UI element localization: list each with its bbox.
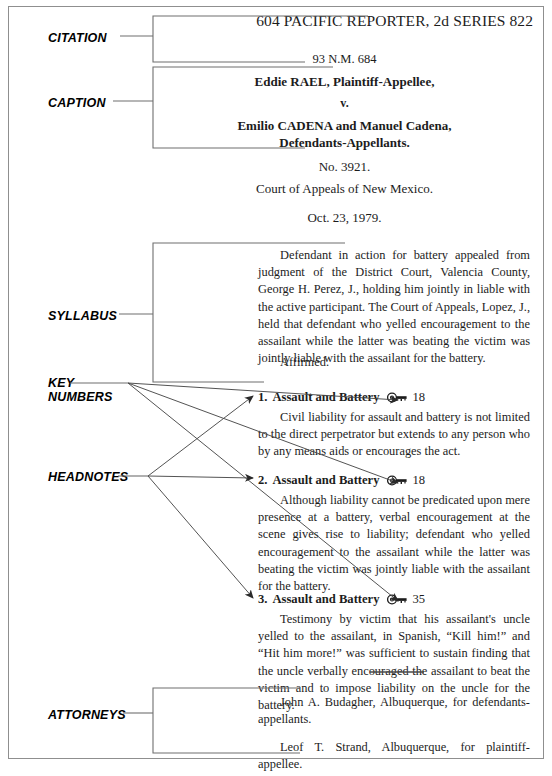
headnote-number: 3.	[258, 592, 267, 606]
key-icon	[387, 475, 408, 490]
syllabus-paragraph: Defendant in action for battery appealed…	[258, 247, 530, 367]
party-appellee: Eddie RAEL, Plaintiff-Appellee,	[153, 74, 536, 90]
headnote-topic: Assault and Battery	[272, 473, 379, 487]
attorney-for-appellee: Leof T. Strand, Albuquerque, for plainti…	[258, 739, 530, 773]
annotation-label-key-numbers: KEY NUMBERS	[48, 376, 113, 404]
decision-date: Oct. 23, 1979.	[153, 210, 536, 226]
annotated-case-report-page: CITATION CAPTION SYLLABUS KEY NUMBERS HE…	[0, 0, 552, 776]
attorneys-block-appellants: John A. Budagher, Albuquerque, for defen…	[258, 694, 530, 728]
annotation-label-caption: CAPTION	[48, 96, 106, 110]
running-head: 604 PACIFIC REPORTER, 2d SERIES 822	[153, 12, 533, 30]
key-number: 35	[413, 592, 426, 606]
parallel-citation: 93 N.M. 684	[153, 52, 536, 67]
headnote-topic: Assault and Battery	[272, 592, 379, 606]
annotation-label-citation: CITATION	[48, 31, 107, 45]
headnote-topic: Assault and Battery	[272, 390, 379, 404]
versus-separator: v.	[153, 96, 536, 111]
party-appellants-line-1: Emilio CADENA and Manuel Cadena,	[153, 118, 536, 134]
leader-headnote-3	[148, 476, 253, 598]
attorneys-block-appellee: Leof T. Strand, Albuquerque, for plainti…	[258, 739, 530, 773]
annotation-label-headnotes: HEADNOTES	[48, 470, 128, 484]
leader-headnote-1	[148, 396, 253, 476]
attorney-for-appellants: John A. Budagher, Albuquerque, for defen…	[258, 694, 530, 728]
headnote-number: 2.	[258, 473, 267, 487]
headnote-heading: 1.Assault and Battery18	[258, 390, 530, 407]
key-number: 18	[413, 390, 426, 404]
headnote-heading: 2.Assault and Battery18	[258, 473, 530, 490]
party-appellants-line-2: Defendants-Appellants.	[153, 135, 536, 151]
headnote-text: Civil liability for assault and battery …	[258, 409, 530, 461]
headnote-number: 1.	[258, 390, 267, 404]
key-icon	[387, 392, 408, 407]
syllabus-text: Defendant in action for battery appealed…	[258, 247, 530, 367]
headnote: 2.Assault and Battery18 Although liabili…	[258, 473, 530, 595]
headnote: 1.Assault and Battery18 Civil liability …	[258, 390, 530, 461]
leader-headnote-2	[148, 476, 253, 478]
key-icon	[387, 594, 408, 609]
key-number: 18	[413, 473, 426, 487]
headnote-heading: 3.Assault and Battery35	[258, 592, 530, 609]
disposition-paragraph: Affirmed.	[258, 354, 530, 371]
headnote-text: Although liability cannot be predicated …	[258, 492, 530, 595]
annotation-label-syllabus: SYLLABUS	[48, 309, 117, 323]
court-name: Court of Appeals of New Mexico.	[153, 181, 536, 197]
disposition-text: Affirmed.	[258, 354, 530, 371]
docket-number: No. 3921.	[153, 159, 536, 175]
annotation-label-attorneys: ATTORNEYS	[48, 708, 126, 722]
